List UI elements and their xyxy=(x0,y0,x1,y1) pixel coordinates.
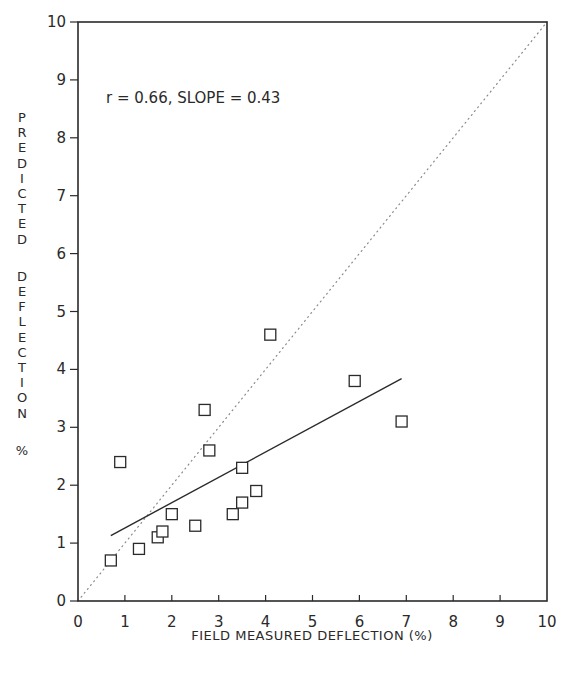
y-axis-title-letter: E xyxy=(18,330,26,345)
y-tick-label: 8 xyxy=(56,129,66,147)
y-axis-ticks: 012345678910 xyxy=(47,13,78,610)
y-axis-title-letter: L xyxy=(18,314,26,329)
data-point xyxy=(349,375,360,386)
data-point xyxy=(190,520,201,531)
x-tick-label: 10 xyxy=(537,613,556,631)
data-points xyxy=(105,329,407,566)
y-axis-title-letter: C xyxy=(17,345,26,360)
regression-line xyxy=(111,379,402,536)
regression-line xyxy=(111,379,402,536)
y-tick-label: 0 xyxy=(56,592,66,610)
data-point xyxy=(204,445,215,456)
data-point xyxy=(166,509,177,520)
scatter-chart: 012345678910 012345678910 r = 0.66, SLOP… xyxy=(0,0,572,692)
y-axis-title-letter: I xyxy=(20,375,24,390)
y-axis-title: PREDICTEDDEFLECTION% xyxy=(16,110,28,458)
y-axis-title-letter: % xyxy=(16,443,28,458)
x-axis-title: FIELD MEASURED DEFLECTION (%) xyxy=(191,628,433,643)
y-axis-title-letter: E xyxy=(18,140,26,155)
y-axis-title-letter: D xyxy=(17,269,27,284)
y-tick-label: 5 xyxy=(56,303,66,321)
y-tick-label: 6 xyxy=(56,245,66,263)
y-axis-title-letter: C xyxy=(17,186,26,201)
x-tick-label: 2 xyxy=(167,613,177,631)
data-point xyxy=(133,543,144,554)
x-tick-label: 8 xyxy=(448,613,458,631)
y-axis-title-letter: R xyxy=(17,125,26,140)
data-point xyxy=(265,329,276,340)
y-axis-title-letter: T xyxy=(17,201,26,216)
data-point xyxy=(237,497,248,508)
x-tick-label: 1 xyxy=(120,613,130,631)
y-tick-label: 3 xyxy=(56,418,66,436)
data-point xyxy=(251,485,262,496)
y-tick-label: 1 xyxy=(56,534,66,552)
y-axis-title-letter: F xyxy=(18,299,25,314)
x-tick-label: 9 xyxy=(495,613,505,631)
data-point xyxy=(227,509,238,520)
stats-annotation: r = 0.66, SLOPE = 0.43 xyxy=(106,89,280,107)
data-point xyxy=(396,416,407,427)
data-point xyxy=(157,526,168,537)
y-tick-label: 10 xyxy=(47,13,66,31)
y-axis-title-letter: T xyxy=(17,360,26,375)
line-of-equality-line xyxy=(78,22,547,601)
y-axis-title-letter: E xyxy=(18,284,26,299)
x-tick-label: 0 xyxy=(73,613,83,631)
y-tick-label: 7 xyxy=(56,187,66,205)
y-axis-title-letter: P xyxy=(18,110,26,125)
data-point xyxy=(115,457,126,468)
y-tick-label: 4 xyxy=(56,360,66,378)
y-axis-title-letter: D xyxy=(17,156,27,171)
y-axis-title-letter: I xyxy=(20,171,24,186)
y-axis-title-letter: E xyxy=(18,216,26,231)
y-axis-title-letter: N xyxy=(17,406,27,421)
data-point xyxy=(237,462,248,473)
data-point xyxy=(199,404,210,415)
y-axis-title-letter: O xyxy=(17,390,27,405)
y-tick-label: 9 xyxy=(56,71,66,89)
y-axis-title-letter: D xyxy=(17,232,27,247)
data-point xyxy=(105,555,116,566)
line-of-equality xyxy=(78,22,547,601)
y-tick-label: 2 xyxy=(56,476,66,494)
